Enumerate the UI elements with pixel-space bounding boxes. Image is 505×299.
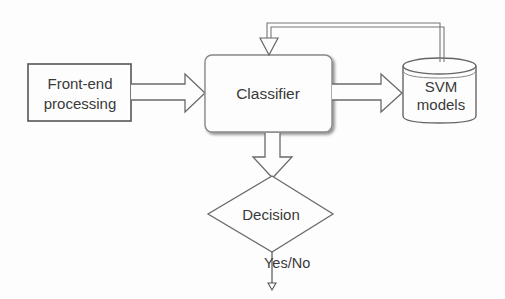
classifier-node: Classifier bbox=[205, 55, 332, 132]
output-label-yes-no: Yes/No bbox=[264, 255, 310, 271]
frontend-processing-node: Front-end processing bbox=[28, 64, 131, 121]
flowchart-diagram: Front-end processing Classifier SVM mode… bbox=[0, 0, 505, 299]
output-arrow: Yes/No bbox=[264, 252, 310, 290]
svm-label-line1: SVM bbox=[425, 78, 458, 95]
classifier-label: Classifier bbox=[236, 85, 300, 102]
arrow-classifier-to-svm bbox=[332, 74, 402, 112]
decision-node: Decision bbox=[208, 176, 333, 252]
frontend-label-line1: Front-end bbox=[47, 75, 112, 92]
svm-models-node: SVM models bbox=[403, 58, 476, 123]
arrow-frontend-to-classifier bbox=[131, 74, 205, 112]
arrow-classifier-to-decision bbox=[253, 133, 292, 178]
decision-label: Decision bbox=[242, 206, 300, 223]
frontend-label-line2: processing bbox=[44, 95, 117, 112]
svm-label-line2: models bbox=[417, 96, 465, 113]
